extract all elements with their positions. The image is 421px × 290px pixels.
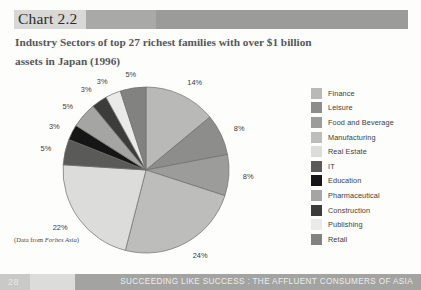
legend-swatch (311, 219, 322, 230)
legend-item: IT (311, 159, 419, 174)
chart-page: Chart 2.2 Industry Sectors of top 27 ric… (0, 0, 421, 290)
legend-label: Real Estate (328, 147, 367, 156)
legend-label: Retail (328, 235, 347, 244)
legend-swatch (311, 102, 322, 113)
pie-chart-svg: 14%8%8%24%22%5%3%5%3%3%5% (0, 60, 300, 260)
legend-swatch (311, 117, 322, 128)
legend-item: Publishing (311, 217, 419, 232)
legend-item: Manufacturing (311, 130, 419, 145)
legend-label: IT (328, 162, 335, 171)
legend-item: Finance (311, 86, 419, 101)
pie-slice-label: 3% (81, 85, 92, 94)
pie-chart: 14%8%8%24%22%5%3%5%3%3%5% (0, 60, 300, 260)
chart-number-label: Chart 2.2 (18, 8, 78, 29)
chart-legend: FinanceLeisureFood and BeverageManufactu… (311, 86, 419, 247)
legend-label: Construction (328, 206, 370, 215)
legend-item: Pharmaceutical (311, 188, 419, 203)
pie-slice-label: 5% (125, 70, 136, 79)
source-note-suffix: ) (77, 236, 79, 243)
pie-slice-label: 8% (234, 124, 245, 133)
legend-swatch (311, 190, 322, 201)
legend-swatch (311, 234, 322, 245)
legend-swatch (311, 205, 322, 216)
legend-swatch (311, 146, 322, 157)
footer-segment-mid (30, 274, 75, 290)
legend-label: Pharmaceutical (328, 191, 380, 200)
chart-title-line-1: Industry Sectors of top 27 richest famil… (15, 36, 312, 48)
header-band-segment-mid (86, 10, 156, 29)
legend-label: Publishing (328, 220, 363, 229)
legend-label: Food and Beverage (328, 118, 394, 127)
legend-item: Retail (311, 232, 419, 247)
legend-swatch (311, 132, 322, 143)
header-band-segment-dark (156, 10, 408, 29)
legend-label: Finance (328, 89, 355, 98)
source-note: (Data from Forbes Asia) (14, 236, 79, 243)
legend-item: Construction (311, 203, 419, 218)
source-note-prefix: (Data from (14, 236, 45, 243)
pie-slice-group (63, 87, 229, 253)
legend-item: Food and Beverage (311, 115, 419, 130)
pie-slice-label: 3% (49, 122, 60, 131)
pie-slice-label: 8% (243, 172, 254, 181)
pie-slice-label: 3% (97, 77, 108, 86)
legend-swatch (311, 88, 322, 99)
legend-label: Education (328, 176, 361, 185)
legend-item: Education (311, 174, 419, 189)
source-note-publication: Forbes Asia (45, 236, 77, 243)
legend-swatch (311, 175, 322, 186)
legend-swatch (311, 161, 322, 172)
legend-item: Leisure (311, 101, 419, 116)
footer-band: 28 SUCCEEDING LIKE SUCCESS : THE AFFLUEN… (0, 274, 421, 290)
pie-slice-label: 22% (53, 223, 68, 232)
pie-slice-label: 5% (63, 102, 74, 111)
page-number: 28 (8, 274, 19, 290)
pie-slice-label: 14% (187, 78, 202, 87)
legend-item: Real Estate (311, 144, 419, 159)
pie-slice-label: 5% (41, 144, 52, 153)
legend-label: Leisure (328, 103, 353, 112)
pie-slice-label: 24% (193, 251, 208, 260)
footer-running-title: SUCCEEDING LIKE SUCCESS : THE AFFLUENT C… (120, 274, 413, 290)
legend-label: Manufacturing (328, 133, 376, 142)
